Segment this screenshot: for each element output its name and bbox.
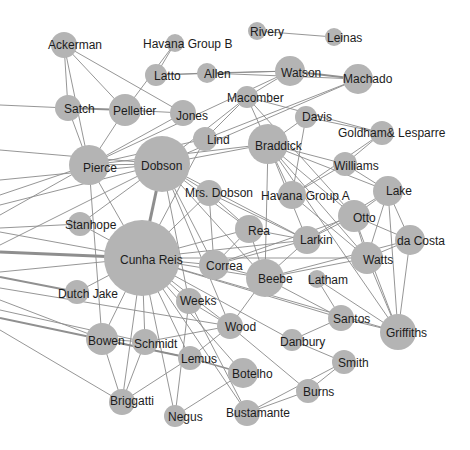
node-label: Latto	[154, 69, 181, 83]
node-label: Briggatti	[110, 394, 154, 408]
node-label: Smith	[338, 356, 369, 370]
node-label: Watts	[363, 253, 393, 267]
node-label: Lake	[386, 184, 412, 198]
node-label: Macomber	[227, 91, 284, 105]
node-label: Latham	[308, 273, 348, 287]
node-label: Stanhope	[65, 218, 117, 232]
node-label: Rivery	[250, 25, 284, 39]
node-label: Bustamante	[226, 406, 290, 420]
node-label: Lemus	[181, 352, 217, 366]
node-label: Machado	[343, 72, 393, 86]
node-label: Griffiths	[386, 326, 427, 340]
node-label: Negus	[168, 410, 203, 424]
node-label: Weeks	[180, 294, 216, 308]
node-label: Rea	[248, 224, 270, 238]
node-label: Cunha Reis	[120, 253, 183, 267]
node-label: Satch	[64, 102, 95, 116]
node-label: Ackerman	[48, 38, 102, 52]
node-label: Allen	[204, 67, 231, 81]
node-label: Havana Group B	[143, 37, 232, 51]
node-layer: AckermanHavana Group BRiveryLeinasLattoA…	[48, 22, 446, 427]
node-label: Jones	[176, 109, 208, 123]
node-label: Pierce	[83, 161, 117, 175]
node-label: Havana Group A	[261, 189, 350, 203]
network-graph: AckermanHavana Group BRiveryLeinasLattoA…	[0, 0, 470, 450]
edge	[89, 165, 102, 339]
node-label: Danbury	[280, 335, 325, 349]
node-label: Schmidt	[134, 337, 178, 351]
node-label: Correa	[206, 259, 243, 273]
node-label: Bowen	[88, 334, 125, 348]
node-label: da Costa	[397, 234, 445, 248]
node-label: Larkin	[300, 233, 333, 247]
node-label: Goldham& Lesparre	[338, 126, 446, 140]
node-label: Beebe	[258, 272, 293, 286]
node-label: Botelho	[232, 367, 273, 381]
node-label: Mrs. Dobson	[185, 186, 253, 200]
node-label: Santos	[333, 312, 370, 326]
node-label: Pelletier	[113, 104, 156, 118]
node-label: Burns	[303, 385, 334, 399]
node-label: Otto	[353, 211, 376, 225]
node-label: Leinas	[327, 31, 362, 45]
node-label: Williams	[334, 159, 379, 173]
node-label: Davis	[302, 110, 332, 124]
edge	[0, 300, 102, 339]
node-label: Wood	[225, 320, 256, 334]
node-label: Dutch Jake	[58, 287, 118, 301]
node-label: Watson	[281, 66, 321, 80]
node-label: Braddick	[255, 139, 303, 153]
node-label: Dobson	[141, 159, 182, 173]
node-label: Lind	[207, 133, 230, 147]
